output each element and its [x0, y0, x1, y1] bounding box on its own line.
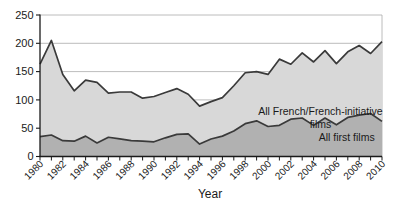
y-tick-label-200: 200 — [15, 37, 33, 49]
x-tick-label-1988: 1988 — [113, 158, 137, 182]
x-tick-label-1990: 1990 — [136, 158, 160, 182]
x-tick-label-2006: 2006 — [318, 158, 342, 182]
y-tick-label-50: 50 — [21, 122, 33, 134]
series-annotation-1-line-0: All first films — [319, 131, 375, 143]
x-tick-label-1980: 1980 — [22, 158, 46, 182]
series-annotation-0-line-0: All French/French-initiative — [258, 105, 382, 117]
x-tick-label-2000: 2000 — [250, 158, 274, 182]
y-tick-label-0: 0 — [27, 150, 33, 162]
y-tick-label-250: 250 — [15, 9, 33, 21]
x-tick-label-1998: 1998 — [227, 158, 251, 182]
x-tick-label-1984: 1984 — [68, 158, 92, 182]
series-annotation-0-line-1: films — [310, 118, 332, 130]
y-tick-label-100: 100 — [15, 94, 33, 106]
x-axis-title: Year — [198, 187, 222, 201]
x-tick-label-2008: 2008 — [341, 158, 365, 182]
y-tick-label-150: 150 — [15, 65, 33, 77]
x-tick-label-1994: 1994 — [182, 158, 206, 182]
x-tick-label-2004: 2004 — [296, 158, 320, 182]
x-tick-label-1982: 1982 — [45, 158, 69, 182]
film-production-area-chart: 0501001502002501980198219841986198819901… — [0, 0, 402, 209]
chart-canvas: 0501001502002501980198219841986198819901… — [0, 0, 402, 209]
x-tick-label-2002: 2002 — [273, 158, 297, 182]
x-tick-label-1986: 1986 — [90, 158, 114, 182]
x-tick-label-1992: 1992 — [159, 158, 183, 182]
x-tick-label-2010: 2010 — [364, 158, 388, 182]
x-tick-label-1996: 1996 — [204, 158, 228, 182]
